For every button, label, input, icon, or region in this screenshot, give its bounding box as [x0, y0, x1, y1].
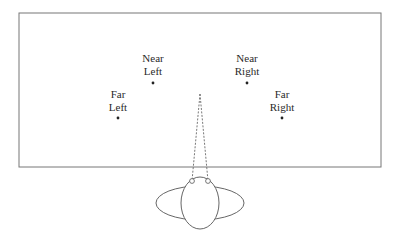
target-near-right-label-1: Near — [236, 52, 258, 64]
target-far-left-dot — [117, 117, 120, 120]
sight-line-right — [200, 94, 208, 181]
target-far-right-label-1: Far — [275, 88, 290, 100]
target-near-left-dot — [152, 82, 155, 85]
target-far-left-label-1: Far — [111, 88, 126, 100]
observer-left-eye — [190, 179, 195, 184]
target-near-left-label-1: Near — [142, 52, 164, 64]
target-far-right: Far Right — [270, 88, 294, 119]
observer-right-eye — [206, 179, 211, 184]
target-near-right-dot — [246, 82, 249, 85]
target-near-right: Near Right — [235, 52, 259, 84]
target-far-left: Far Left — [109, 88, 127, 119]
screen-frame — [19, 13, 381, 167]
observer-head — [181, 177, 219, 229]
sight-line-left — [192, 94, 200, 181]
diagram-canvas: Near Left Near Right Far Left Far Right — [0, 0, 396, 241]
target-far-right-label-2: Right — [270, 101, 294, 113]
target-far-right-dot — [281, 117, 284, 120]
target-near-right-label-2: Right — [235, 65, 259, 77]
target-near-left-label-2: Left — [144, 65, 162, 77]
target-far-left-label-2: Left — [109, 101, 127, 113]
target-near-left: Near Left — [142, 52, 164, 84]
